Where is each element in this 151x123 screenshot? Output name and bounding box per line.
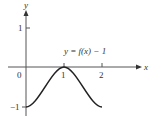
y-tick-label-1: 1 bbox=[18, 23, 23, 33]
chart: y x 1 −1 0 1 2 y = f(x) − 1 bbox=[0, 0, 151, 123]
y-axis-label: y bbox=[23, 0, 28, 10]
x-axis-arrow-icon bbox=[136, 65, 142, 70]
equation-label: y = f(x) − 1 bbox=[63, 46, 106, 56]
x-tick-label-1: 1 bbox=[61, 70, 66, 80]
y-axis-arrow-icon bbox=[24, 10, 29, 16]
origin-label: 0 bbox=[17, 70, 22, 80]
x-axis-label: x bbox=[143, 62, 148, 72]
y-tick-label-neg1: −1 bbox=[10, 102, 20, 112]
x-tick-label-2: 2 bbox=[99, 70, 104, 80]
